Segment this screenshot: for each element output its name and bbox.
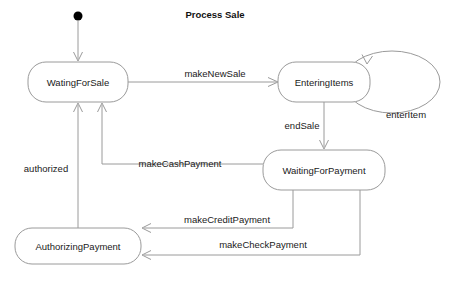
edge-make-cash-payment xyxy=(102,105,263,164)
edge-label-end-sale: endSale xyxy=(285,120,320,131)
edge-label-make-cash-payment: makeCashPayment xyxy=(139,158,222,169)
edge-label-enter-item: enterItem xyxy=(386,109,426,120)
state-diagram-svg: Process Sale WatingForSale EnteringItems… xyxy=(0,0,450,282)
state-label-waiting-for-payment: WaitingForPayment xyxy=(282,165,365,176)
edge-label-make-check-payment: makeCheckPayment xyxy=(219,239,307,250)
arrowhead-self-loop-enter-item xyxy=(362,55,373,65)
state-label-entering-items: EnteringItems xyxy=(295,77,354,88)
state-diagram-canvas: Process Sale WatingForSale EnteringItems… xyxy=(0,0,450,282)
edge-label-make-credit-payment: makeCreditPayment xyxy=(184,214,270,225)
state-label-authorizing-payment: AuthorizingPayment xyxy=(35,241,120,252)
edge-label-authorized: authorized xyxy=(24,163,68,174)
initial-state-dot xyxy=(74,12,83,21)
edge-label-make-new-sale: makeNewSale xyxy=(184,68,245,79)
state-label-waiting-for-sale: WatingForSale xyxy=(47,77,109,88)
diagram-title: Process Sale xyxy=(185,9,244,20)
